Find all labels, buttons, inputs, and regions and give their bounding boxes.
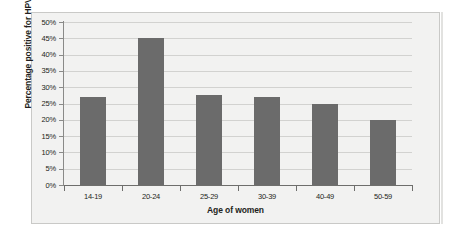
- y-tick-mark: [59, 104, 64, 105]
- y-tick-label: 10%: [22, 148, 56, 157]
- gridline: [64, 120, 412, 121]
- bar: [370, 120, 397, 185]
- y-tick-mark: [59, 120, 64, 121]
- x-tick-mark: [354, 186, 355, 191]
- x-tick-label: 50-59: [358, 192, 408, 201]
- gridline: [64, 71, 412, 72]
- gridline: [64, 136, 412, 137]
- x-tick-label: 40-49: [300, 192, 350, 201]
- gridline: [64, 104, 412, 105]
- x-tick-mark: [64, 186, 65, 191]
- y-tick-mark: [59, 38, 64, 39]
- bar: [312, 104, 339, 186]
- x-tick-mark: [238, 186, 239, 191]
- x-tick-mark: [412, 186, 413, 191]
- y-axis-title: Percentage positive for HPV: [23, 0, 33, 133]
- gridline: [64, 169, 412, 170]
- x-axis-title: Age of women: [0, 205, 471, 215]
- gridline: [64, 55, 412, 56]
- x-tick-label: 25-29: [184, 192, 234, 201]
- bar: [138, 38, 165, 185]
- gridline: [64, 22, 412, 23]
- y-tick-mark: [59, 71, 64, 72]
- y-tick-mark: [59, 152, 64, 153]
- gridline: [64, 87, 412, 88]
- x-tick-label: 20-24: [126, 192, 176, 201]
- gridline: [64, 152, 412, 153]
- bar: [80, 97, 107, 185]
- y-tick-label: 5%: [22, 164, 56, 173]
- frame-edge-artifact: [441, 12, 443, 224]
- gridline: [64, 38, 412, 39]
- y-tick-mark: [59, 22, 64, 23]
- x-tick-mark: [180, 186, 181, 191]
- y-tick-label: 0%: [22, 181, 56, 190]
- bar: [254, 97, 281, 185]
- x-tick-mark: [122, 186, 123, 191]
- bar: [196, 95, 223, 185]
- x-tick-mark: [296, 186, 297, 191]
- y-tick-mark: [59, 55, 64, 56]
- x-tick-label: 14-19: [68, 192, 118, 201]
- chart-figure: 0%5%10%15%20%25%30%35%40%45%50% 14-1920-…: [0, 0, 471, 239]
- x-tick-label: 30-39: [242, 192, 292, 201]
- plot-area: [64, 22, 412, 185]
- y-tick-mark: [59, 136, 64, 137]
- y-tick-mark: [59, 169, 64, 170]
- y-tick-mark: [59, 87, 64, 88]
